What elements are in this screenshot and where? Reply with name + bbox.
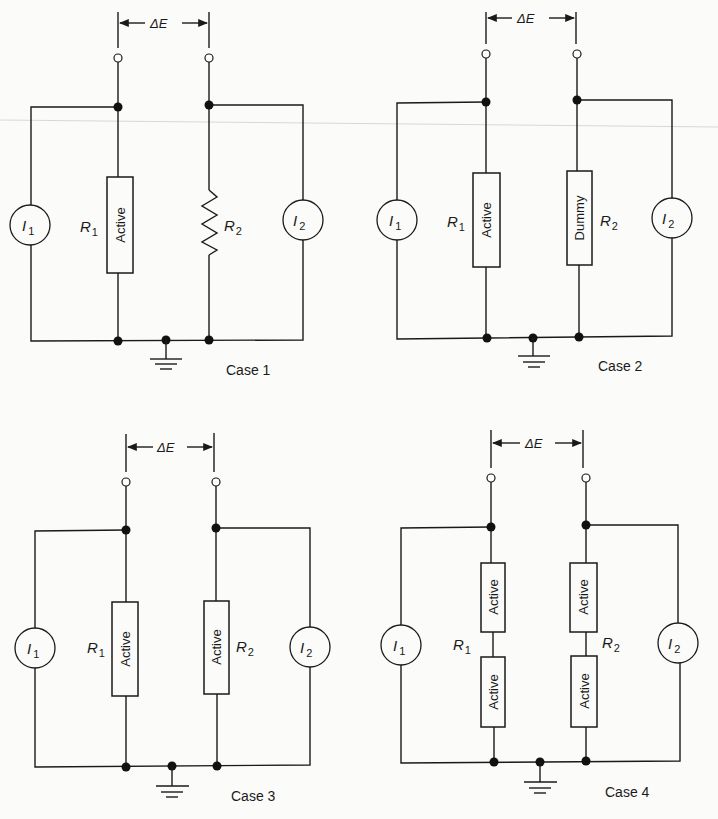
- case-1-label: Case 1: [226, 362, 271, 378]
- junction-node: [212, 524, 221, 533]
- junction-node: [482, 98, 491, 107]
- output-terminal-right: [582, 474, 590, 482]
- page-crease: [0, 120, 718, 127]
- ground-icon: [524, 762, 557, 793]
- delta-e-indicator: ΔE: [118, 12, 209, 48]
- junction-node: [213, 762, 222, 771]
- case-4-label: Case 4: [605, 784, 650, 800]
- delta-e-indicator: ΔE: [126, 433, 214, 472]
- active-gauge-r1-label: Active: [479, 202, 494, 237]
- r1-label: R1: [80, 218, 98, 238]
- ground-icon: [156, 766, 189, 797]
- r2-label: R2: [236, 638, 254, 658]
- r1-label: R1: [447, 213, 465, 233]
- delta-e-label: ΔE: [516, 11, 535, 26]
- delta-e-label: ΔE: [149, 16, 168, 31]
- output-terminal-right: [205, 54, 213, 62]
- case-1-circuit: ΔE Active R1 R2 I1 I2 C: [10, 12, 323, 378]
- delta-e-label: ΔE: [524, 436, 543, 451]
- ground-icon: [150, 340, 182, 369]
- dummy-gauge-r2-label: Dummy: [572, 195, 587, 240]
- r2-label: R2: [602, 634, 620, 654]
- junction-node: [573, 96, 582, 105]
- r2-label: R2: [224, 217, 242, 237]
- r1-label: R1: [453, 636, 471, 656]
- case-3-circuit: ΔE Active Active R1 R2 I1 I2 Case 3: [15, 433, 330, 804]
- junction-node: [122, 763, 131, 772]
- junction-node: [122, 526, 131, 535]
- junction-node: [582, 521, 591, 530]
- output-terminal-left: [487, 474, 495, 482]
- circuit-figure: ΔE Active R1 R2 I1 I2 C: [0, 0, 718, 819]
- delta-e-indicator: ΔE: [491, 430, 583, 468]
- active-gauge-r1-label: Active: [113, 207, 128, 242]
- junction-node: [483, 334, 492, 343]
- active-gauge-r2-upper-label: Active: [576, 579, 591, 614]
- junction-node: [205, 336, 214, 345]
- active-gauge-r1-label: Active: [118, 631, 133, 666]
- junction-node: [490, 758, 499, 767]
- delta-e-label: ΔE: [156, 440, 175, 455]
- active-gauge-r1-lower-label: Active: [486, 674, 501, 709]
- delta-e-indicator: ΔE: [486, 11, 576, 44]
- r2-label: R2: [600, 212, 618, 232]
- case-3-label: Case 3: [231, 788, 276, 804]
- active-gauge-r2-label: Active: [209, 629, 224, 664]
- output-terminal-left: [482, 50, 490, 58]
- active-gauge-r1-upper-label: Active: [486, 579, 501, 614]
- junction-node: [582, 757, 591, 766]
- output-terminal-left: [114, 54, 122, 62]
- r1-label: R1: [87, 639, 105, 659]
- case-2-circuit: ΔE Active Dummy R1 R2 I1 I2 Case 2: [377, 11, 692, 374]
- junction-node: [205, 101, 214, 110]
- junction-node: [114, 103, 123, 112]
- junction-node: [487, 523, 496, 532]
- output-terminal-left: [122, 478, 130, 486]
- resistor-r2-zigzag-icon: [202, 190, 217, 255]
- case-4-circuit: ΔE Active Active Active Active R1 R2 I1 …: [381, 430, 698, 800]
- junction-node: [114, 337, 123, 346]
- output-terminal-right: [212, 478, 220, 486]
- active-gauge-r2-lower-label: Active: [577, 673, 592, 708]
- case-2-label: Case 2: [598, 358, 643, 374]
- output-terminal-right: [573, 50, 581, 58]
- junction-node: [575, 333, 584, 342]
